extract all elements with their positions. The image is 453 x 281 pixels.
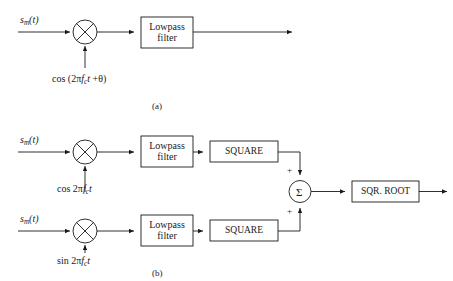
cos-carrier-label-b: cos 2πfct (57, 184, 92, 196)
figure-canvas: sm(t) Lowpass filter cos (2πfct +θ) (a) … (0, 0, 453, 281)
summation-symbol: Σ (296, 186, 302, 198)
input-signal-label-b-bottom: sm(t) (20, 214, 39, 226)
summer-plus-top: + (287, 165, 292, 175)
carrier-label-a: cos (2πfct +θ) (52, 74, 106, 86)
summer-plus-bottom: + (287, 206, 292, 216)
diagram-lines (0, 0, 453, 281)
sin-carrier-label-b: sin 2πfct (57, 256, 90, 268)
caption-a: (a) (152, 101, 162, 111)
input-signal-label-b-top: sm(t) (20, 135, 39, 147)
caption-b: (b) (152, 268, 163, 278)
input-signal-label-a: sm(t) (20, 15, 39, 27)
